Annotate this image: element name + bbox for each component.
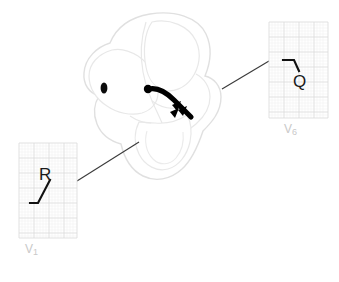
ecg-panel-v1[interactable] bbox=[19, 143, 77, 238]
accessory-pathway-origin-node bbox=[144, 85, 152, 93]
leader-line-v6 bbox=[222, 61, 269, 89]
ecg-wave-label-r: R bbox=[39, 165, 51, 185]
vessel-cross-section-marker bbox=[101, 82, 108, 93]
ecg-lead-caption-v1-letter: V bbox=[25, 242, 33, 256]
ecg-lead-caption-v6-subscript: 6 bbox=[292, 127, 297, 137]
ecg-wave-label-q: Q bbox=[293, 72, 306, 92]
figure-canvas: R Q V1 V6 bbox=[0, 0, 339, 282]
ecg-lead-caption-v1-subscript: 1 bbox=[33, 247, 38, 257]
heart-cross-section bbox=[84, 13, 221, 179]
ecg-lead-caption-v1: V1 bbox=[25, 242, 38, 257]
diagram-vector-layer bbox=[0, 0, 339, 282]
ecg-lead-caption-v6: V6 bbox=[284, 122, 297, 137]
ecg-lead-caption-v6-letter: V bbox=[284, 122, 292, 136]
ecg-panel-v6[interactable] bbox=[269, 22, 328, 118]
